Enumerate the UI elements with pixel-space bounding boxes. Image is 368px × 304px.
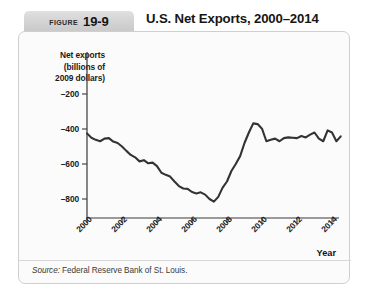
figure-card: Net exports (billions of 2009 dollars) –… (18, 31, 350, 284)
net-exports-line (87, 123, 341, 201)
figure-container: Figure 19-9 U.S. Net Exports, 2000–2014 … (0, 0, 368, 304)
y-tick-label: –400 (35, 124, 79, 134)
figure-title: U.S. Net Exports, 2000–2014 (146, 11, 319, 26)
y-tick-label: –800 (35, 194, 79, 204)
y-tick-label: –200 (35, 89, 79, 99)
source-note: Source: Federal Reserve Bank of St. Loui… (32, 266, 187, 275)
figure-header: Figure 19-9 U.S. Net Exports, 2000–2014 (0, 0, 368, 34)
net-exports-line-chart (19, 32, 351, 245)
y-tick-label: –600 (35, 159, 79, 169)
source-text: Federal Reserve Bank of St. Louis. (62, 266, 187, 275)
figure-label: Figure (49, 16, 78, 27)
x-axis-title: Year (317, 248, 336, 258)
figure-number-tab: Figure 19-9 (24, 11, 134, 32)
plot-area (19, 32, 351, 245)
source-divider (19, 260, 351, 261)
figure-number: 19-9 (83, 14, 109, 29)
source-label: Source: (32, 266, 60, 275)
